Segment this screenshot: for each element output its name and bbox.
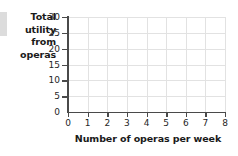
y-tick-label: 20 [42, 44, 60, 54]
x-tick [186, 112, 187, 117]
gridline-vertical [225, 17, 226, 112]
x-tick [127, 112, 128, 117]
x-tick-label: 1 [80, 118, 96, 128]
y-tick [62, 96, 67, 97]
y-tick-label: 5 [42, 91, 60, 101]
x-axis-title: Number of operas per week [68, 133, 228, 144]
x-tick [147, 112, 148, 117]
gridline-horizontal [68, 96, 225, 97]
x-tick [166, 112, 167, 117]
y-tick-label: 25 [42, 28, 60, 38]
gridline-horizontal [68, 80, 225, 81]
x-tick [88, 112, 89, 117]
y-tick [62, 80, 67, 81]
x-tick-label: 4 [139, 118, 155, 128]
x-tick [225, 112, 226, 117]
gridline-horizontal [68, 17, 225, 18]
x-tick-label: 6 [178, 118, 194, 128]
x-tick [68, 112, 69, 117]
x-tick-label: 8 [217, 118, 233, 128]
y-tick [62, 17, 67, 18]
y-tick-label: 10 [42, 75, 60, 85]
y-axis-line [67, 16, 69, 113]
x-tick [107, 112, 108, 117]
x-tick-label: 3 [119, 118, 135, 128]
x-tick [205, 112, 206, 117]
y-tick-label: 30 [42, 12, 60, 22]
y-tick-label: 15 [42, 60, 60, 70]
y-tick-label: 0 [42, 107, 60, 117]
gridline-horizontal [68, 33, 225, 34]
x-tick-label: 5 [158, 118, 174, 128]
y-tick [62, 49, 67, 50]
y-tick [62, 33, 67, 34]
x-tick-label: 7 [197, 118, 213, 128]
gridline-horizontal [68, 49, 225, 50]
plot-area [68, 17, 225, 112]
x-tick-label: 2 [99, 118, 115, 128]
x-tick-label: 0 [60, 118, 76, 128]
y-tick [62, 65, 67, 66]
gridline-horizontal [68, 65, 225, 66]
